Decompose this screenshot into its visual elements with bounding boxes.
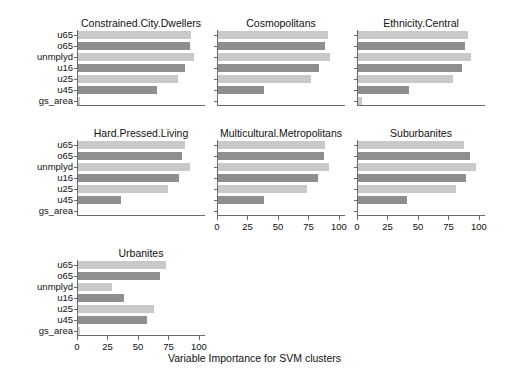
bar-u16 [78,294,124,302]
bar-o65 [358,42,465,50]
bar-fill [358,97,362,105]
bar-fill [358,152,470,160]
y-axis-tick [354,200,357,201]
bar-fill [78,86,157,94]
x-axis-tick [278,216,279,220]
bar-fill [358,86,409,94]
y-axis-tick [214,68,217,69]
y-axis-tick [74,156,77,157]
bar-fill [78,261,166,269]
y-axis-tick [74,265,77,266]
bar-u25 [78,75,178,83]
bar-u45 [218,86,264,94]
x-axis-tick-label: 75 [303,221,314,232]
bar-u45 [78,196,121,204]
y-axis-tick [74,79,77,80]
y-axis-tick [214,200,217,201]
bar-fill [78,316,147,324]
bar-unmplyd [78,53,194,61]
y-axis-label-gs_area: gs_area [39,206,73,216]
bar-fill [218,141,325,149]
y-axis-label-u25: u25 [57,184,73,194]
y-axis-tick [214,35,217,36]
x-axis-line [217,105,345,106]
y-axis-tick [354,35,357,36]
x-axis-tick-label: 100 [191,341,207,352]
y-axis-tick [214,189,217,190]
y-axis-tick [354,156,357,157]
y-axis-tick [214,90,217,91]
x-axis-tick [448,216,449,220]
x-axis-ticks: 0255075100 [217,216,345,236]
bar-fill [358,64,462,72]
x-axis-tick-label: 75 [443,221,454,232]
y-axis-labels: u65o65unmplydu16u25u45gs_area [25,140,73,216]
bar-u25 [218,185,307,193]
y-axis-tick [74,331,77,332]
y-axis-tick [74,276,77,277]
bar-fill [218,53,330,61]
y-axis-label-u25: u25 [57,304,73,314]
bar-u25 [358,185,456,193]
y-axis-label-u45: u45 [57,85,73,95]
x-axis-tick [107,336,108,340]
y-axis-label-u45: u45 [57,195,73,205]
bar-fill [218,174,318,182]
bar-o65 [358,152,470,160]
bar-fill [78,174,179,182]
y-axis-label-gs_area: gs_area [39,96,73,106]
y-axis-tick [74,287,77,288]
bar-fill [218,185,307,193]
y-axis-tick [74,46,77,47]
x-axis-tick-label: 75 [163,341,174,352]
bar-o65 [218,152,324,160]
bar-fill [78,283,112,291]
bar-fill [78,196,121,204]
bar-fill [218,152,324,160]
y-axis-label-u16: u16 [57,63,73,73]
y-axis-tick [214,156,217,157]
bar-fill [78,141,185,149]
x-axis-tick-label: 0 [74,341,79,352]
bar-u25 [78,185,168,193]
x-axis-tick-label: 50 [133,341,144,352]
bar-fill [78,75,178,83]
y-axis-labels: u65o65unmplydu16u25u45gs_area [25,260,73,336]
y-axis-label-unmplyd: unmplyd [37,162,73,172]
bar-fill [358,141,464,149]
bar-fill [78,163,190,171]
bar-fill [78,272,160,280]
x-axis-line [77,105,205,106]
bar-fill [358,75,453,83]
x-axis-line [77,215,205,216]
bar-fill [78,294,124,302]
bar-u45 [218,196,264,204]
y-axis-tick [74,68,77,69]
bar-fill [358,53,471,61]
x-axis-tick [138,336,139,340]
bar-gs_area [78,327,80,335]
y-axis-label-unmplyd: unmplyd [37,282,73,292]
bar-u16 [78,64,185,72]
y-axis-label-u45: u45 [57,315,73,325]
bar-fill [358,42,465,50]
y-axis-tick [354,46,357,47]
y-axis-tick [214,145,217,146]
x-axis-caption: Variable Importance for SVM clusters [0,352,509,364]
x-axis-line [357,105,485,106]
x-axis-tick-label: 100 [471,221,487,232]
y-axis-tick [74,320,77,321]
x-axis-tick [217,216,218,220]
bar-u45 [78,316,147,324]
y-axis-tick [214,178,217,179]
bar-u65 [78,261,166,269]
y-axis-label-gs_area: gs_area [39,326,73,336]
y-axis-tick [214,57,217,58]
x-axis-tick-label: 25 [382,221,393,232]
x-axis-tick-label: 25 [242,221,253,232]
bar-fill [218,196,264,204]
x-axis-ticks: 0255075100 [357,216,485,236]
bar-fill [78,42,190,50]
bar-u65 [218,141,325,149]
bar-u45 [358,86,409,94]
